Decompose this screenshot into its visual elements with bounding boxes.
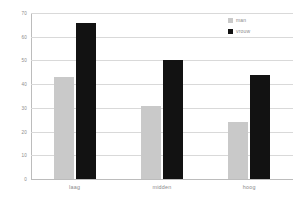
y-axis-tick-label: 50 xyxy=(22,58,27,63)
y-axis-tick-label: 0 xyxy=(24,177,27,182)
bar-laag-man xyxy=(54,77,74,179)
bar-chart: 010203040506070 laagmiddenhoog manvrouw xyxy=(0,0,305,214)
bar-hoog-vrouw xyxy=(250,75,270,179)
legend-label: man xyxy=(236,17,246,23)
y-axis-tick-label: 30 xyxy=(22,105,27,110)
bar-midden-man xyxy=(141,106,161,180)
y-axis-tick-label: 60 xyxy=(22,34,27,39)
legend-swatch-icon xyxy=(228,29,233,34)
gridline xyxy=(31,179,293,180)
gridline xyxy=(31,13,293,14)
bar-hoog-man xyxy=(228,122,248,179)
plot-area xyxy=(31,13,293,179)
legend-item-vrouw: vrouw xyxy=(228,26,288,36)
legend-item-man: man xyxy=(228,15,288,25)
y-axis-tick-label: 10 xyxy=(22,153,27,158)
bar-midden-vrouw xyxy=(163,60,183,179)
y-axis-tick-label: 70 xyxy=(22,11,27,16)
x-axis-category-labels: laagmiddenhoog xyxy=(31,184,293,198)
legend-label: vrouw xyxy=(236,28,250,34)
y-axis-tick-labels: 010203040506070 xyxy=(0,13,27,179)
x-axis-category-label: laag xyxy=(69,184,80,190)
x-axis-category-label: midden xyxy=(152,184,171,190)
legend: manvrouw xyxy=(228,15,288,37)
bar-laag-vrouw xyxy=(76,23,96,180)
legend-swatch-icon xyxy=(228,18,233,23)
gridline xyxy=(31,60,293,61)
y-axis-tick-label: 40 xyxy=(22,82,27,87)
y-axis-tick-label: 20 xyxy=(22,129,27,134)
x-axis-category-label: hoog xyxy=(243,184,256,190)
